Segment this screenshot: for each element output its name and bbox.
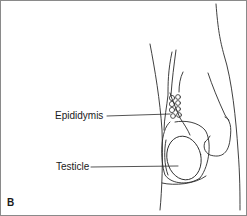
spermatic-cord-right — [171, 50, 176, 95]
cord-branch — [179, 72, 183, 92]
panel-letter: B — [7, 197, 14, 208]
epididymis-label: Epididymis — [55, 110, 103, 122]
penis-outline — [204, 73, 231, 156]
spermatic-cord-left — [164, 52, 172, 130]
anatomy-drawing — [0, 0, 247, 216]
thigh-outline-left — [150, 44, 162, 210]
testicle-leader-line — [91, 166, 178, 167]
testicle-shape — [163, 133, 205, 183]
testicle-label: Testicle — [56, 161, 89, 173]
body-outline-right — [216, 4, 240, 210]
epididymis-outline — [170, 93, 190, 135]
scrotum-outline — [162, 121, 209, 183]
